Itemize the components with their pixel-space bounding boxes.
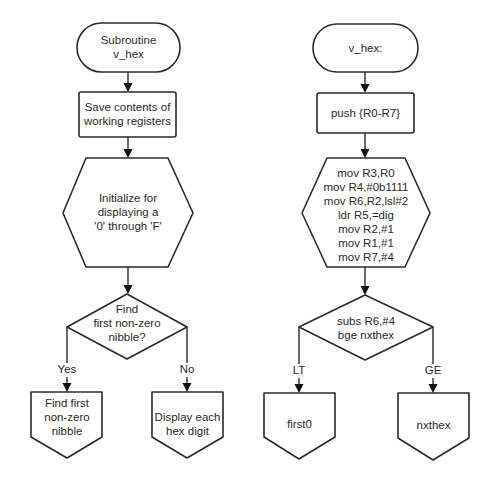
connector-yes-line-2: non-zero xyxy=(44,411,89,423)
arrow-down-icon xyxy=(124,83,133,92)
right-start-terminal: v_hex: xyxy=(313,24,418,72)
branch-ge-label: GE xyxy=(425,364,442,376)
left-start-line-2: v_hex xyxy=(113,48,144,60)
left-save-line-2: working registers xyxy=(83,115,171,127)
left-decision-line-1: Find xyxy=(116,303,138,315)
arrow-down-icon xyxy=(429,384,438,393)
right-init-line-3: mov R6,R2,lsl#2 xyxy=(324,195,408,207)
connector-yes-line-1: Find first xyxy=(45,397,90,409)
left-offpage-connector-no: Display each hex digit xyxy=(152,392,223,458)
right-init-line-5: mov R2,#1 xyxy=(338,223,394,235)
right-init-line-4: ldr R5,=dig xyxy=(338,209,394,221)
right-push-line-1: push {R0-R7} xyxy=(331,107,400,119)
connector-lt-line-1: first0 xyxy=(287,418,312,430)
left-init-line-2: displaying a xyxy=(98,206,159,218)
right-decision-line-2: bge nxthex xyxy=(338,329,395,341)
right-push-process: push {R0-R7} xyxy=(317,93,414,133)
connector-yes-line-3: nibble xyxy=(52,425,83,437)
left-init-preparation: Initialize for displaying a '0' through … xyxy=(63,158,193,267)
left-decision: Find first non-zero nibble? xyxy=(67,294,187,359)
arrow-down-icon xyxy=(183,383,192,392)
arrow-down-icon xyxy=(361,286,370,295)
left-start-terminal: Subroutine v_hex xyxy=(77,23,180,72)
right-init-line-6: mov R1,#1 xyxy=(338,237,394,249)
right-init-line-1: mov R3,R0 xyxy=(337,167,395,179)
left-start-line-1: Subroutine xyxy=(101,34,157,46)
left-decision-line-3: nibble? xyxy=(108,331,145,343)
connector-ge-line-1: nxthex xyxy=(417,419,451,431)
left-flowchart: Subroutine v_hex Save contents of workin… xyxy=(31,23,223,458)
left-init-line-3: '0' through 'F' xyxy=(94,220,162,232)
right-offpage-connector-first0: first0 xyxy=(264,393,335,459)
left-save-process: Save contents of working registers xyxy=(79,92,176,137)
arrow-down-icon xyxy=(63,383,72,392)
connector-no-line-1: Display each xyxy=(155,411,221,423)
arrow-down-icon xyxy=(295,384,304,393)
right-decision-line-1: subs R6,#4 xyxy=(337,315,396,327)
branch-no-label: No xyxy=(180,363,195,375)
arrow-down-icon xyxy=(124,285,133,294)
left-decision-line-2: first non-zero xyxy=(93,317,160,329)
arrow-down-icon xyxy=(361,84,370,93)
left-init-line-1: Initialize for xyxy=(99,192,157,204)
arrow-down-icon xyxy=(361,149,370,158)
right-offpage-connector-nxthex: nxthex xyxy=(398,393,469,460)
right-init-line-7: mov R7,#4 xyxy=(338,251,394,263)
connector-no-line-2: hex digit xyxy=(166,425,210,437)
right-decision: subs R6,#4 bge nxthex xyxy=(299,295,433,360)
right-init-line-2: mov R4,#0b1111 xyxy=(323,181,408,193)
right-start-line-1: v_hex: xyxy=(349,42,383,54)
branch-lt-label: LT xyxy=(293,364,306,376)
branch-yes-label: Yes xyxy=(58,363,77,375)
right-flowchart: v_hex: push {R0-R7} mov R3,R0 mov R4,#0b… xyxy=(264,24,469,460)
arrow-down-icon xyxy=(124,149,133,158)
left-save-line-1: Save contents of xyxy=(85,101,171,113)
right-init-preparation: mov R3,R0 mov R4,#0b1111 mov R6,R2,lsl#2… xyxy=(302,158,430,267)
left-offpage-connector-yes: Find first non-zero nibble xyxy=(31,392,102,458)
flowchart-canvas: Subroutine v_hex Save contents of workin… xyxy=(0,0,495,489)
